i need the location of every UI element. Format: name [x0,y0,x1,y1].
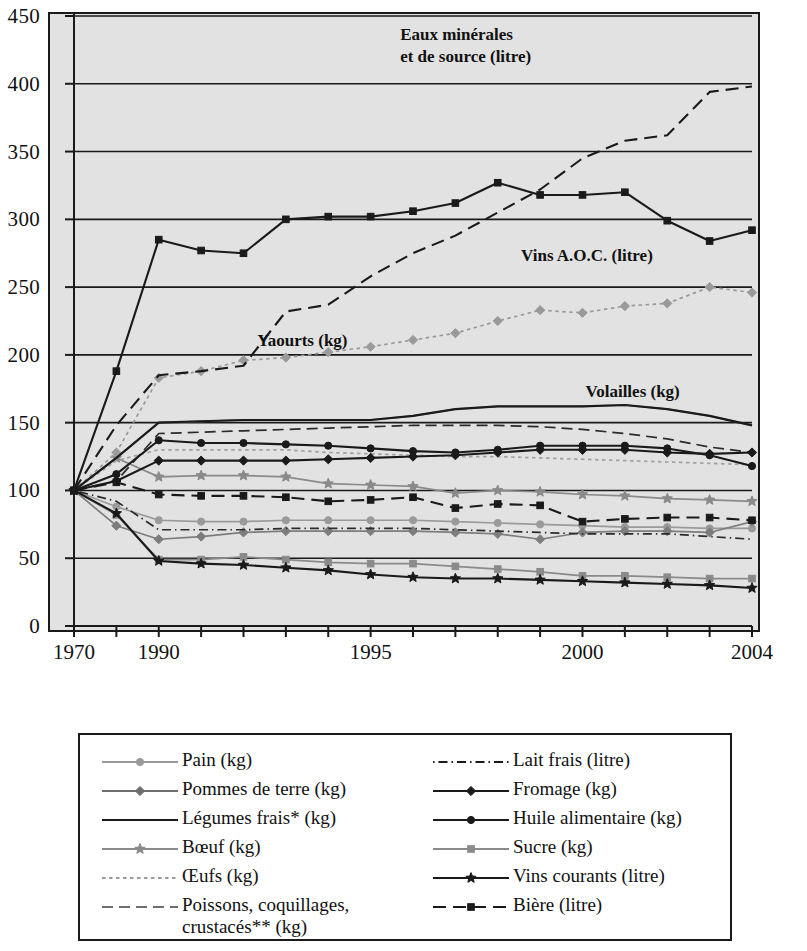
legend-item-right-1[interactable]: Fromage (kg) [429,778,730,807]
series-point [578,528,587,537]
legend-swatch [98,809,182,831]
legend-item-left-3[interactable]: Bœuf (kg) [98,836,399,865]
legend-item-left-0[interactable]: Pain (kg) [98,749,399,778]
legend-item-right-0[interactable]: Lait frais (litre) [429,749,730,778]
y-axis-tick-200: 200 [8,342,40,367]
legend-item-label: Vins courants (litre) [513,865,665,887]
series-point [281,527,290,536]
series-point [747,496,757,506]
series-point [367,560,374,567]
legend-item-label: Bière (litre) [513,894,602,916]
series-point [494,566,501,573]
series-point [579,518,586,525]
legend-item-right-2[interactable]: Huile alimentaire (kg) [429,807,730,836]
series-point [535,486,545,496]
series-point [747,288,756,297]
series-point [494,519,501,526]
series-point [197,532,206,541]
series-point [704,495,714,505]
series-point [325,517,332,524]
series-point [240,493,247,500]
series-point [238,470,248,480]
series-point [283,216,290,223]
series-point [536,535,545,544]
series-point [198,247,205,254]
legend-item-label: Œufs (kg) [182,865,259,887]
legend-item-right-3[interactable]: Sucre (kg) [429,836,730,865]
y-axis-tick-50: 50 [18,546,40,571]
annotation-vins-aoc: Vins A.O.C. (litre) [521,245,653,266]
annotation-yaourts: Yaourts (kg) [257,330,347,351]
series-point [408,335,417,344]
series-point [493,485,503,495]
series-point [281,471,291,481]
legend-swatch [98,838,182,860]
series-point [537,502,544,509]
legend-item-right-4[interactable]: Vins courants (litre) [429,865,730,894]
series-point [494,501,501,508]
legend-swatch [98,896,182,918]
series-point [706,452,713,459]
annotation-eaux-line2: et de source (litre) [400,46,531,68]
y-axis-tick-300: 300 [8,207,40,232]
series-point [579,442,586,449]
series-point [579,192,586,199]
plot-area: Eaux minérales et de source (litre) Vins… [48,12,760,632]
annotation-eaux-line1: Eaux minérales [400,24,531,46]
legend-swatch [429,838,513,860]
series-point [113,368,120,375]
legend-item-label-line2: crustacés** (kg) [182,916,349,938]
series-point [747,583,757,593]
legend-item-left-1[interactable]: Pommes de terre (kg) [98,778,399,807]
series-point [198,439,205,446]
series-point [409,448,416,455]
legend-item-left-4[interactable]: Œufs (kg) [98,865,399,894]
series-point [664,514,671,521]
series-point [663,299,672,308]
series-point [240,250,247,257]
y-axis-tick-100: 100 [8,478,40,503]
x-axis-tick-1990: 1990 [138,640,180,665]
legend-item-label: Légumes frais* (kg) [182,807,336,829]
series-point [282,441,289,448]
series-point [536,306,545,315]
series-point [535,575,545,585]
annotation-eaux-minerales: Eaux minérales et de source (litre) [400,24,531,68]
y-axis-tick-labels: 050100150200250300350400450 [0,12,40,632]
series-point [747,448,756,457]
series-point [198,493,205,500]
chart-root: 050100150200250300350400450 Eaux minéral… [0,0,807,951]
legend-column-left: Pain (kg)Pommes de terre (kg)Légumes fra… [80,749,399,939]
legend-item-left-2[interactable]: Légumes frais* (kg) [98,807,399,836]
series-point [620,490,630,500]
series-point [621,442,628,449]
series-point [493,573,503,583]
legend-item-label: Fromage (kg) [513,778,617,800]
series-point [748,462,755,469]
series-point [450,573,460,583]
series-point [706,238,713,245]
legend-item-label: Lait frais (litre) [513,749,630,771]
y-axis-tick-0: 0 [29,614,40,639]
legend-swatch [429,896,513,918]
series-point [367,517,374,524]
series-point [537,521,544,528]
series-point [493,316,502,325]
y-axis-tick-250: 250 [8,275,40,300]
series-point [452,200,459,207]
legend-item-label: Pain (kg) [182,749,252,771]
series-point [450,488,460,498]
legend-swatch [429,867,513,889]
legend-item-right-5[interactable]: Bière (litre) [429,894,730,923]
legend-item-left-5[interactable]: Poissons, coquillages,crustacés** (kg) [98,894,399,938]
series-point [281,456,290,465]
series-point [749,227,756,234]
y-axis-tick-400: 400 [8,71,40,96]
series-point [452,563,459,570]
legend-swatch [429,780,513,802]
series-point [71,487,78,494]
y-axis-tick-450: 450 [8,4,40,29]
series-point [365,480,375,490]
axes [65,14,752,637]
series-point [155,236,162,243]
